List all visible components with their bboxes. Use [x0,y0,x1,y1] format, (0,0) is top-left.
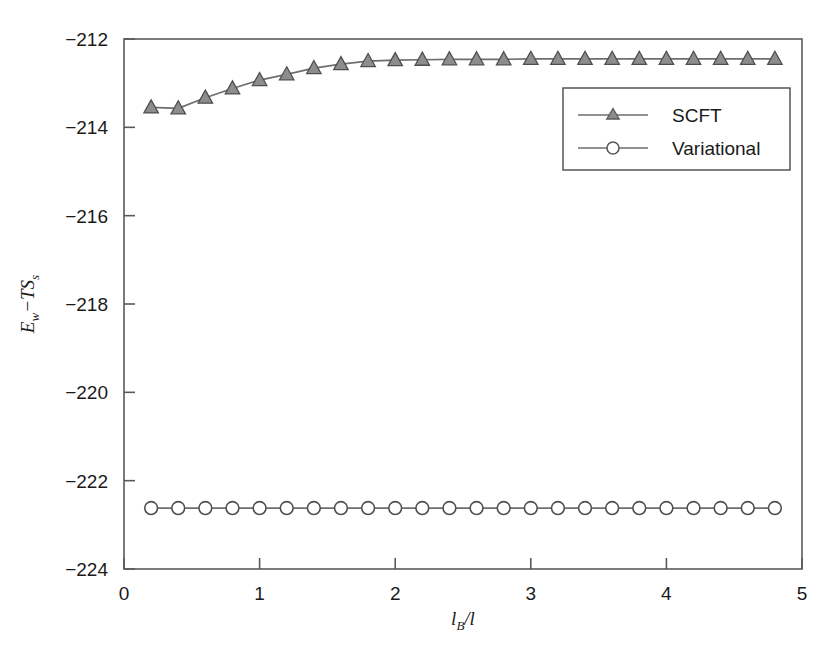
y-title-ts-sub: s [27,275,42,280]
data-point-marker [362,502,375,515]
y-tick-label: −224 [65,559,108,580]
data-point-marker [741,502,754,515]
circle-marker-icon [607,142,619,154]
x-title-tail: /l [463,608,475,629]
y-tick-label: −220 [65,382,108,403]
data-point-marker [768,502,781,515]
data-point-marker [579,502,592,515]
data-point-marker [226,502,239,515]
y-tick-label: −222 [65,471,108,492]
data-point-marker [606,502,619,515]
data-point-marker [307,502,320,515]
x-tick-label: 2 [390,583,401,604]
y-title-ts: TS [17,279,38,300]
x-title-sub: B [456,618,464,633]
y-title-dash: − [17,300,38,313]
data-point-marker [389,502,402,515]
data-point-marker [633,502,646,515]
data-point-marker [253,502,266,515]
y-tick-label: −214 [65,117,108,138]
data-point-marker [524,502,537,515]
x-tick-label: 4 [661,583,672,604]
y-tick-label: −218 [65,294,108,315]
data-point-marker [687,502,700,515]
data-point-marker [497,502,510,515]
data-point-marker [660,502,673,515]
data-point-marker [335,502,348,515]
data-point-marker [280,502,293,515]
data-point-marker [145,502,158,515]
data-point-marker [470,502,483,515]
figure-container: −224−222−220−218−216−214−212 012345 lB/l… [0,0,840,659]
data-point-marker [416,502,429,515]
y-tick-label: −212 [65,29,108,50]
y-tick-label: −216 [65,206,108,227]
legend-label-scft: SCFT [672,105,722,126]
x-tick-label: 5 [797,583,808,604]
data-point-marker [714,502,727,515]
legend[interactable]: SCFT Variational [563,88,790,170]
data-point-marker [552,502,565,515]
y-title-e-sub: w [27,313,42,322]
y-title-e: E [17,321,38,334]
x-tick-label: 0 [119,583,130,604]
data-point-marker [172,502,185,515]
legend-label-variational: Variational [672,138,760,159]
data-point-marker [443,502,456,515]
chart-canvas: −224−222−220−218−216−214−212 012345 lB/l… [0,0,840,659]
data-point-marker [199,502,212,515]
x-tick-label: 1 [254,583,265,604]
x-tick-label: 3 [526,583,537,604]
